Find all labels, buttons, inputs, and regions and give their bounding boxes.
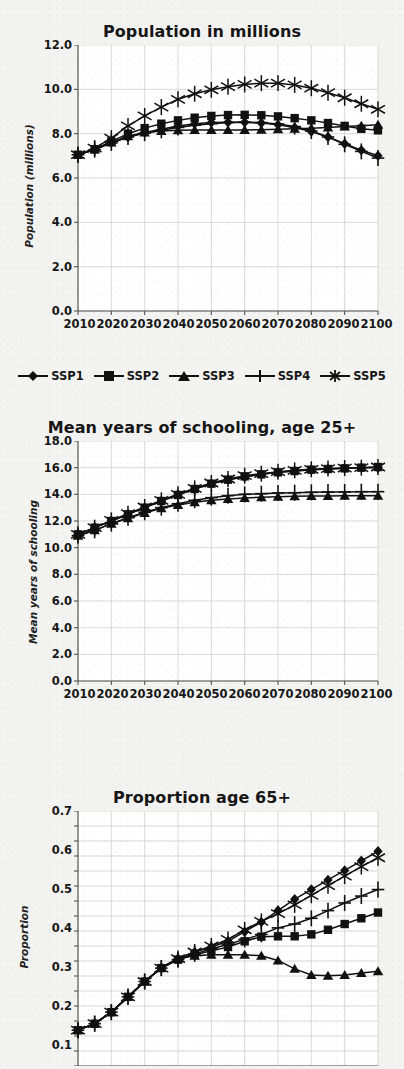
y-tick: 0.6: [52, 843, 72, 857]
y-tick: 0.0: [52, 304, 72, 318]
x-tick: 2010: [63, 687, 96, 701]
y-tick: 4.0: [52, 621, 72, 635]
legend-item-ssp5[interactable]: SSP5: [320, 369, 385, 383]
chart-panel-population: Population in millions Population (milli…: [0, 22, 404, 362]
y-tick: 16.0: [44, 461, 72, 475]
legend-label: SSP2: [127, 369, 159, 383]
legend-item-ssp1[interactable]: SSP1: [18, 369, 83, 383]
y-tick: 0.7: [52, 804, 72, 818]
y-tick: 10.0: [44, 82, 72, 96]
y-tick: 10.0: [44, 541, 72, 555]
y-tick: 0.1: [52, 1038, 72, 1052]
x-tick: 2050: [195, 687, 228, 701]
y-tick: 0.0: [52, 674, 72, 688]
x-tick: 2050: [195, 317, 228, 331]
x-tick: 2070: [261, 317, 294, 331]
y-tick: 0.5: [52, 882, 72, 896]
legend-marker-square-icon: [94, 369, 124, 383]
x-tick: 2070: [261, 687, 294, 701]
plot-area-population: Population (millions) 12.0 10.0 8.0 6.0 …: [0, 45, 404, 325]
y-tick: 12.0: [44, 514, 72, 528]
legend-label: SSP3: [202, 369, 234, 383]
y-tick: 8.0: [52, 567, 72, 581]
x-tick: 2010: [63, 317, 96, 331]
legend-label: SSP1: [51, 369, 83, 383]
x-tick: 2060: [228, 317, 261, 331]
y-tick: 8.0: [52, 127, 72, 141]
y-tick-column-population: 12.0 10.0 8.0 6.0 4.0 2.0 0.0: [26, 45, 72, 311]
legend-marker-triangle-icon: [169, 369, 199, 383]
y-tick: 0.3: [52, 960, 72, 974]
x-tick: 2100: [360, 317, 393, 331]
legend-item-ssp4[interactable]: SSP4: [245, 369, 310, 383]
x-tick: 2030: [129, 317, 162, 331]
y-tick-column-schooling: 18.0 16.0 14.0 12.0 10.0 8.0 6.0 4.0 2.0…: [26, 441, 72, 681]
x-tick: 2020: [96, 687, 129, 701]
x-tick: 2090: [327, 317, 360, 331]
y-tick: 2.0: [52, 260, 72, 274]
x-tick: 2040: [162, 317, 195, 331]
chart-panel-proportion65: Proportion age 65+ Proportion 0.7 0.6 0.…: [0, 788, 404, 1069]
chart-panel-schooling: Mean years of schooling, age 25+ Mean ye…: [0, 418, 404, 748]
y-tick: 0.4: [52, 921, 72, 935]
y-tick: 12.0: [44, 38, 72, 52]
y-tick: 14.0: [44, 487, 72, 501]
legend-marker-plus-icon: [245, 369, 275, 383]
plot-area-proportion65: Proportion 0.7 0.6 0.5 0.4 0.3 0.2 0.1: [0, 811, 404, 1066]
x-tick: 2100: [360, 687, 393, 701]
legend-label: SSP4: [278, 369, 310, 383]
legend-label: SSP5: [353, 369, 385, 383]
legend-marker-asterisk-icon: [320, 369, 350, 383]
y-tick: 6.0: [52, 171, 72, 185]
plot-area-schooling: Mean years of schooling 18.0 16.0 14.0 1…: [0, 441, 404, 695]
x-tick-row-schooling: 2010 2020 2030 2040 2050 2060 2070 2080 …: [63, 687, 393, 701]
y-tick: 6.0: [52, 594, 72, 608]
x-tick: 2040: [162, 687, 195, 701]
x-tick: 2080: [294, 317, 327, 331]
x-tick: 2090: [327, 687, 360, 701]
legend-item-ssp2[interactable]: SSP2: [94, 369, 159, 383]
x-tick: 2080: [294, 687, 327, 701]
legend-marker-diamond-icon: [18, 369, 48, 383]
x-tick: 2020: [96, 317, 129, 331]
y-tick-column-proportion65: 0.7 0.6 0.5 0.4 0.3 0.2 0.1: [26, 811, 72, 1045]
y-tick: 18.0: [44, 434, 72, 448]
x-tick-row-population: 2010 2020 2030 2040 2050 2060 2070 2080 …: [63, 317, 393, 331]
chart-legend: SSP1 SSP2 SSP3 SSP4 SSP5: [0, 366, 404, 386]
x-tick: 2030: [129, 687, 162, 701]
y-tick: 0.2: [52, 999, 72, 1013]
y-tick: 2.0: [52, 647, 72, 661]
y-tick: 4.0: [52, 215, 72, 229]
legend-item-ssp3[interactable]: SSP3: [169, 369, 234, 383]
x-tick: 2060: [228, 687, 261, 701]
